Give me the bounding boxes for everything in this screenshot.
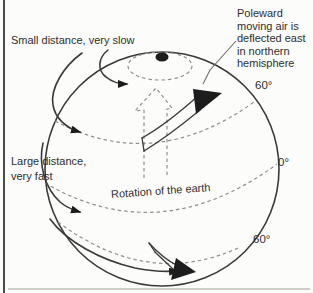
- globe-outline: [45, 52, 279, 286]
- intended-path-arrow: [135, 88, 172, 178]
- latitude-60n-label: 60°: [255, 79, 272, 92]
- small-distance-label: Small distance, very slow: [11, 34, 135, 47]
- bottom-scan-line: [8, 288, 310, 290]
- deflected-path-arrow-south: [149, 243, 196, 280]
- latitude-60s-label: 60°: [253, 233, 270, 246]
- equator-label: 0°: [278, 156, 289, 169]
- large-distance-line1: Large distance,: [11, 155, 86, 168]
- coriolis-effect-diagram: Small distance, very slow Poleward movin…: [0, 0, 313, 293]
- large-distance-line2: very fast: [11, 170, 53, 183]
- rotation-arrow-60s: [50, 219, 178, 271]
- poleward-note-label: Poleward moving air is deflected east in…: [237, 7, 313, 70]
- note-leader-line: [203, 41, 236, 84]
- latitude-60n-line: [55, 102, 254, 143]
- north-pole-dot: [156, 53, 169, 62]
- rotation-arrow-60n: [53, 53, 82, 132]
- deflected-path-arrow-north: [142, 89, 222, 151]
